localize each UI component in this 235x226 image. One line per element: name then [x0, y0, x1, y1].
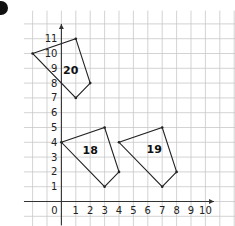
shape-number-label: 18: [83, 144, 98, 157]
shape-number-label: 19: [147, 143, 162, 156]
y-tick-label: 9: [51, 63, 57, 74]
vertex-marker-icon: [103, 126, 106, 129]
y-tick-label: 1: [51, 181, 57, 192]
x-axis-arrow-icon: [209, 199, 214, 204]
y-tick-label: 6: [51, 107, 57, 118]
y-axis-arrow-icon: [59, 24, 64, 29]
y-tick-label: 7: [51, 92, 57, 103]
x-tick-label: 5: [130, 205, 136, 216]
vertex-marker-icon: [31, 52, 34, 55]
vertex-marker-icon: [60, 141, 63, 144]
vertex-marker-icon: [161, 126, 164, 129]
x-tick-label: 8: [173, 205, 179, 216]
x-tick-label: 1: [73, 205, 79, 216]
y-tick-label: 5: [51, 122, 57, 133]
x-tick-label: 7: [159, 205, 165, 216]
x-tick-label: 4: [116, 205, 122, 216]
x-tick-label: 10: [199, 205, 212, 216]
y-tick-label: 10: [45, 48, 58, 59]
vertex-marker-icon: [175, 171, 178, 174]
x-tick-label: 9: [188, 205, 194, 216]
x-tick-label: 6: [145, 205, 151, 216]
vertex-marker-icon: [118, 171, 121, 174]
vertex-marker-icon: [118, 141, 121, 144]
vertex-marker-icon: [103, 185, 106, 188]
y-tick-label: 3: [51, 152, 57, 163]
vertex-marker-icon: [89, 82, 92, 85]
exercise-bullet-icon: [0, 1, 8, 15]
x-tick-label: 3: [101, 205, 107, 216]
vertex-marker-icon: [75, 37, 78, 40]
vertex-marker-icon: [75, 97, 78, 100]
shape-number-label: 20: [63, 64, 79, 77]
x-tick-label: 0: [51, 205, 57, 216]
y-tick-label: 2: [51, 166, 57, 177]
y-tick-label: 11: [45, 33, 58, 44]
x-axis-tick-labels: 012345678910: [51, 205, 212, 216]
vertex-marker-icon: [161, 185, 164, 188]
grid-canvas: 012345678910 1234567891011 201819: [0, 0, 235, 226]
y-tick-label: 4: [51, 137, 57, 148]
x-tick-label: 2: [87, 205, 93, 216]
coordinate-grid-exercise: 012345678910 1234567891011 201819: [0, 0, 235, 226]
y-tick-label: 8: [51, 78, 57, 89]
